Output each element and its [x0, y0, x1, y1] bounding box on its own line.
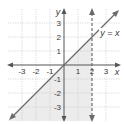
y-axis-label: y: [55, 7, 61, 17]
x-tick-label: 2: [90, 67, 95, 76]
y-axis-arrow-up-icon: [62, 8, 67, 14]
y-tick-label: -2: [54, 89, 62, 98]
y-tick-label: 3: [57, 19, 62, 28]
y-tick-label: 2: [57, 33, 62, 42]
x-tick-label: -3: [18, 67, 26, 76]
dashed-line-arrow-up-icon: [89, 8, 95, 15]
x-tick-label: 1: [76, 67, 81, 76]
x-axis-label: x: [114, 67, 120, 77]
x-tick-label: 3: [104, 67, 109, 76]
x-tick-label: -2: [32, 67, 40, 76]
y-tick-label: -1: [54, 75, 62, 84]
coordinate-graph: -3 -2 -1 1 2 3 x 3 2 1 -1 -2 -3 y y = x: [0, 0, 124, 124]
y-tick-label: 1: [57, 47, 62, 56]
line-label-y-equals-x: y = x: [99, 28, 120, 38]
y-tick-label: -3: [54, 103, 62, 112]
x-axis-arrow-left-icon: [7, 63, 13, 68]
